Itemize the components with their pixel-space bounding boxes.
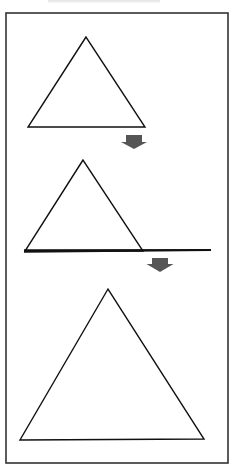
down-arrow-icon [121,135,147,149]
thick-baseline [24,249,211,253]
triangle-on-line [25,160,143,251]
triangle-small [28,37,145,127]
outer-frame [6,13,228,463]
down-arrow-icon [147,258,174,272]
triangle-sequence-diagram [0,0,235,471]
triangle-large [20,289,204,440]
